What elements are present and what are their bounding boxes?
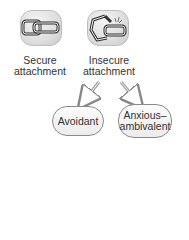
anxious-ambivalent-node: Anxious– ambivalent	[118, 104, 172, 138]
avoidant-label: Avoidant	[58, 116, 99, 127]
label-line: ambivalent	[120, 121, 171, 132]
avoidant-node: Avoidant	[52, 106, 104, 136]
